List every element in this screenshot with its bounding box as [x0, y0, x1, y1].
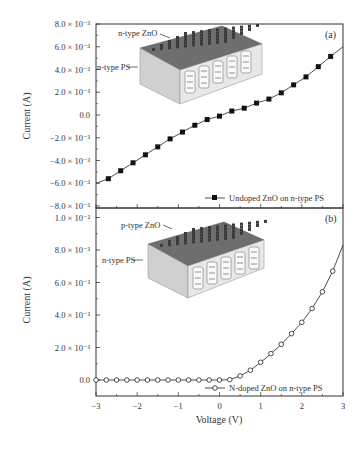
data-point — [229, 109, 234, 114]
panel-a-legend: Undoped ZnO on n-type PS — [205, 193, 324, 203]
data-point — [279, 90, 284, 95]
panel-a: 8.0 × 10⁻³6.0 × 10⁻³4.0 × 10⁻³2.0 × 10⁻³… — [50, 19, 343, 211]
panel-b-inset-device-illustration — [133, 220, 267, 298]
y-tick-label: −2.0 × 10⁻³ — [50, 133, 90, 143]
panel-b-label: (b) — [325, 213, 337, 225]
data-point — [269, 351, 274, 356]
y-tick-label: −8.0 × 10⁻³ — [50, 201, 90, 211]
data-point — [114, 378, 119, 383]
x-tick-label: 3 — [341, 401, 345, 411]
data-point — [289, 331, 294, 336]
data-point — [145, 378, 150, 383]
iv-curve-figure: 8.0 × 10⁻³6.0 × 10⁻³4.0 × 10⁻³2.0 × 10⁻³… — [0, 0, 363, 450]
data-point — [328, 54, 333, 59]
data-point — [316, 64, 321, 69]
y-tick-label: 6.0 × 10⁻³ — [55, 278, 91, 288]
data-point — [205, 117, 210, 122]
data-point — [330, 269, 335, 274]
data-point — [180, 130, 185, 135]
inset-b-top-label: p-type ZnO — [121, 220, 160, 230]
data-point — [104, 378, 109, 383]
x-tick-label: −2 — [133, 401, 142, 411]
data-point — [266, 97, 271, 102]
data-point — [143, 152, 148, 157]
data-point — [300, 320, 305, 325]
legend-a-label: Undoped ZnO on n-type PS — [229, 193, 324, 203]
x-tick-label: −1 — [174, 401, 183, 411]
panel-b-legend: N-doped ZnO on n-type PS — [205, 383, 323, 393]
y-axis-title-b: Current (A) — [21, 277, 33, 324]
x-tick-label: 2 — [300, 401, 304, 411]
data-point — [242, 106, 247, 111]
data-point — [125, 378, 130, 383]
data-point — [106, 176, 111, 181]
inset-a-top-label: n-type ZnO — [118, 28, 157, 38]
data-point — [176, 378, 181, 383]
data-point — [248, 368, 253, 373]
panel-b: 1.0 × 10⁻²8.0 × 10⁻³6.0 × 10⁻³4.0 × 10⁻³… — [55, 208, 345, 411]
y-tick-label: 0.0 — [79, 375, 90, 385]
y-tick-label: 2.0 × 10⁻³ — [55, 87, 91, 97]
data-point — [186, 378, 191, 383]
inset-b-side-label: n-type PS — [102, 255, 136, 265]
data-point — [118, 168, 123, 173]
data-point — [258, 360, 263, 365]
data-point — [94, 378, 99, 383]
x-tick-label: 0 — [217, 401, 221, 411]
data-point — [217, 114, 222, 119]
panel-a-label: (a) — [325, 29, 336, 41]
x-axis-title: Voltage (V) — [196, 414, 243, 426]
x-tick-label: −3 — [91, 401, 100, 411]
y-tick-label: 4.0 × 10⁻³ — [55, 310, 91, 320]
data-point — [207, 378, 212, 383]
y-tick-label: 1.0 × 10⁻² — [55, 213, 91, 223]
data-point — [155, 378, 160, 383]
inset-a-side-label: n-type PS — [97, 62, 131, 72]
y-tick-label: 8.0 × 10⁻³ — [55, 245, 91, 255]
y-tick-label: 2.0 × 10⁻³ — [55, 343, 91, 353]
y-tick-label: 8.0 × 10⁻³ — [55, 19, 91, 29]
data-point — [192, 123, 197, 128]
data-point — [197, 378, 202, 383]
panel-b-y-ticks: 1.0 × 10⁻²8.0 × 10⁻³6.0 × 10⁻³4.0 × 10⁻³… — [55, 213, 100, 386]
data-point — [227, 377, 232, 382]
data-point — [155, 144, 160, 149]
y-tick-label: −6.0 × 10⁻³ — [50, 178, 90, 188]
y-tick-label: 0.0 — [79, 110, 90, 120]
data-point — [217, 378, 222, 383]
data-point — [320, 289, 325, 294]
data-point — [135, 378, 140, 383]
data-point — [166, 378, 171, 383]
data-point — [291, 82, 296, 87]
data-point — [310, 306, 315, 311]
legend-b-label: N-doped ZnO on n-type PS — [229, 383, 323, 393]
data-point — [254, 101, 259, 106]
data-point — [168, 136, 173, 141]
y-tick-label: −4.0 × 10⁻³ — [50, 156, 90, 166]
y-tick-label: 4.0 × 10⁻³ — [55, 65, 91, 75]
x-axis-ticks: −3−2−10123 — [91, 392, 345, 411]
y-tick-label: 6.0 × 10⁻³ — [55, 42, 91, 52]
data-point — [303, 74, 308, 79]
data-point — [238, 374, 243, 379]
data-point — [279, 342, 284, 347]
y-axis-title-a: Current (A) — [21, 93, 33, 140]
data-point — [131, 160, 136, 165]
x-tick-label: 1 — [259, 401, 263, 411]
